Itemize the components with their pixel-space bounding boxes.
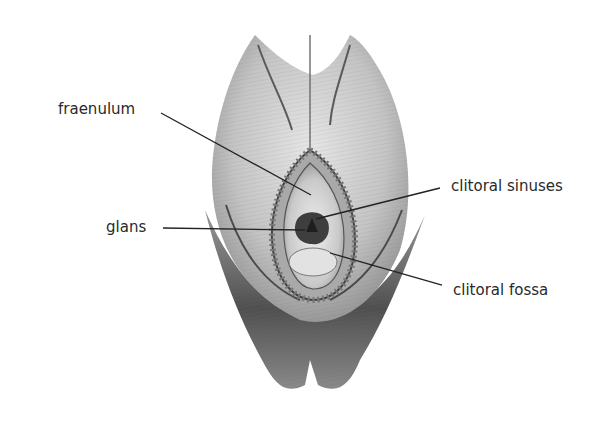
label-fraenulum: fraenulum bbox=[58, 102, 135, 117]
anatomical-illustration bbox=[0, 0, 613, 425]
label-clitoral-fossa: clitoral fossa bbox=[453, 283, 548, 298]
label-clitoral-sinuses: clitoral sinuses bbox=[451, 179, 563, 194]
label-glans: glans bbox=[106, 220, 146, 235]
